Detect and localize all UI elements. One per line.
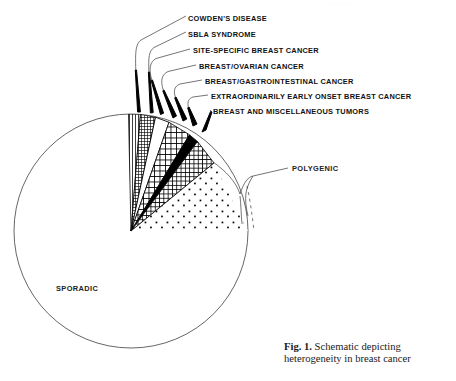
callout-label-cowdens-disease: COWDEN'S DISEASE xyxy=(188,14,267,23)
slice-label-sporadic: SPORADIC xyxy=(56,284,98,293)
leader-breast-and-miscellaneous-tumors xyxy=(202,111,212,132)
leader-sbla-syndrome xyxy=(148,72,153,113)
callout-label-polygenic: POLYGENIC xyxy=(292,164,339,173)
callout-label-breast-and-miscellaneous-tumors: BREAST AND MISCELLANEOUS TUMORS xyxy=(213,107,369,116)
callout-label-breast-ovarian-cancer: BREAST/OVARIAN CANCER xyxy=(199,62,304,71)
callout-label-sbla-syndrome: SBLA SYNDROME xyxy=(188,30,256,39)
callout-label-site-specific-breast-cancer: SITE-SPECIFIC BREAST CANCER xyxy=(193,46,319,55)
heterogeneity-pie-chart: COWDEN'S DISEASE SBLA SYNDROME SITE-SPEC… xyxy=(0,0,456,381)
callout-label-breast-gastrointestinal-cancer: BREAST/GASTROINTESTINAL CANCER xyxy=(205,77,354,86)
figure-caption-prefix: Fig. 1. xyxy=(284,341,312,352)
leader-cowdens-disease xyxy=(135,70,140,112)
leader-extraordinarily-early-onset-breast-cancer xyxy=(188,107,197,126)
figure-container: COWDEN'S DISEASE SBLA SYNDROME SITE-SPEC… xyxy=(0,0,456,381)
scan-artifact: · · ·· ·· · xyxy=(330,1,450,9)
leader-breast-gastrointestinal-cancer xyxy=(175,97,187,121)
callout-label-extraordinarily-early-onset-breast-cancer: EXTRAORDINARILY EARLY ONSET BREAST CANCE… xyxy=(211,92,412,101)
figure-caption: Fig. 1. Schematic depicting heterogeneit… xyxy=(284,341,454,366)
